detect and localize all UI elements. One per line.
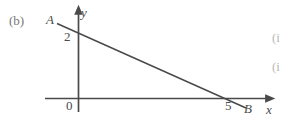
point-label-a: A bbox=[46, 13, 54, 26]
line-segment-AB bbox=[57, 24, 246, 109]
part-label: (b) bbox=[9, 14, 24, 27]
x-axis-label: x bbox=[266, 103, 272, 116]
y-axis-label: y bbox=[81, 6, 87, 19]
graph-figure: (b) A y 2 0 5 B x (i (i bbox=[0, 0, 287, 123]
margin-note-ii: (i bbox=[272, 60, 280, 73]
point-label-b: B bbox=[244, 102, 252, 115]
y-intercept-tick-label: 2 bbox=[64, 30, 71, 43]
x-intercept-tick-label: 5 bbox=[225, 99, 232, 112]
origin-label: 0 bbox=[66, 99, 73, 112]
margin-note-i: (i bbox=[272, 31, 280, 44]
